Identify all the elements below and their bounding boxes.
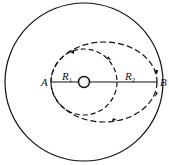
label-r1: R1 xyxy=(61,70,73,84)
arrow-transfer-bottom-icon xyxy=(112,118,117,121)
label-a: A xyxy=(40,76,48,88)
diagram-canvas: A B R1 R2 xyxy=(0,0,169,165)
arrow-inner-orbit-icon xyxy=(107,56,111,60)
orbit-diagram: A B R1 R2 xyxy=(0,0,169,165)
label-r2: R2 xyxy=(124,70,136,84)
label-b: B xyxy=(160,76,167,88)
planet-highlight xyxy=(81,79,86,84)
